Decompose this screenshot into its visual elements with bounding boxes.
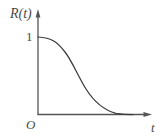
x-axis-label: t: [151, 121, 155, 134]
origin-label: O: [26, 118, 35, 131]
reliability-function-figure: R(t) t O 1: [0, 0, 166, 138]
y-axis-label: R(t): [10, 7, 32, 21]
reliability-curve: [38, 37, 133, 115]
x-axis-arrowhead: [144, 112, 153, 117]
y-axis-arrowhead: [36, 9, 41, 18]
y-tick-label-one: 1: [26, 30, 33, 43]
